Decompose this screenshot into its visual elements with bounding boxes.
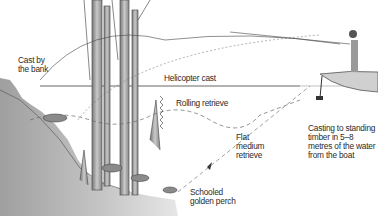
label-helicopter-cast: Helicopter cast (164, 74, 216, 83)
label-casting-to-timber: Casting to standing timber in 5–8 metres… (308, 124, 375, 160)
fishing-technique-diagram: Cast by the bank Helicopter cast Rolling… (0, 0, 378, 216)
river-bank (0, 78, 178, 216)
rolling-retrieve-line (30, 100, 300, 128)
label-schooled-golden-perch: Schooled golden perch (190, 188, 236, 206)
illustration (0, 0, 378, 216)
label-flat-medium-retrieve: Flat medium retrieve (236, 133, 264, 160)
boat-and-angler (230, 30, 378, 100)
label-rolling-retrieve: Rolling retrieve (176, 99, 228, 108)
label-cast-by-bank: Cast by the bank (18, 56, 48, 74)
